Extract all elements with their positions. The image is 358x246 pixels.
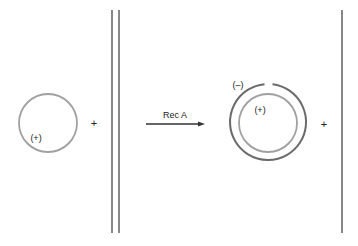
- reaction-arrow-head-icon: [198, 122, 205, 127]
- diagram-svg: (+) + Rec A (–) (+) +: [0, 0, 358, 246]
- right-plus-operator: +: [321, 118, 327, 130]
- inner-plus-strand-circle: [239, 94, 297, 152]
- outer-minus-strand-circle: [230, 84, 306, 160]
- left-plus-operator: +: [91, 117, 97, 129]
- reaction-label: Rec A: [163, 110, 187, 120]
- left-circular-ssdna: [19, 94, 77, 152]
- inner-strand-label: (+): [254, 105, 265, 115]
- left-circle-label: (+): [30, 133, 41, 143]
- outer-strand-label: (–): [233, 80, 244, 90]
- diagram-canvas: (+) + Rec A (–) (+) +: [0, 0, 358, 246]
